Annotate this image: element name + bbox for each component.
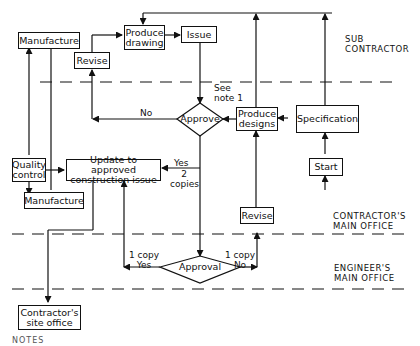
zone-sub-contractor: SUB CONTRACTOR bbox=[345, 34, 409, 54]
zone-line: MAIN OFFICE bbox=[334, 273, 395, 283]
box-label: Start bbox=[314, 162, 337, 172]
label-line: 2 bbox=[170, 169, 198, 179]
decision-approval[interactable]: Approval bbox=[170, 262, 230, 272]
box-label: Contractor's bbox=[20, 308, 78, 318]
box-specification[interactable]: Specification bbox=[296, 105, 359, 133]
label-one-copy-no: 1 copy No bbox=[224, 250, 256, 270]
label-yes: Yes bbox=[174, 158, 189, 168]
label-one-copy-yes: 1 copy Yes bbox=[128, 250, 160, 270]
zone-line: ENGINEER'S bbox=[334, 263, 395, 273]
label-line: 1 copy bbox=[224, 250, 256, 260]
box-label: drawing bbox=[125, 38, 163, 48]
label-see-note-1: See note 1 bbox=[214, 83, 243, 103]
box-label: Issue bbox=[187, 30, 212, 40]
zone-contractor-main-office: CONTRACTOR'S MAIN OFFICE bbox=[333, 211, 406, 231]
box-manufacture-bottom[interactable]: Manufacture bbox=[24, 192, 84, 209]
box-revise-bottom[interactable]: Revise bbox=[240, 207, 274, 224]
label-two-copies: 2 copies bbox=[170, 169, 198, 189]
label-line: See bbox=[214, 83, 243, 93]
box-contractors-site-office[interactable]: Contractor's site office bbox=[18, 305, 81, 330]
notes-heading: NOTES bbox=[12, 336, 44, 346]
label-line: copies bbox=[170, 179, 198, 189]
label-line: No bbox=[224, 260, 256, 270]
box-label: designs bbox=[239, 119, 275, 129]
zone-line: CONTRACTOR'S bbox=[333, 211, 406, 221]
zone-line: SUB bbox=[345, 34, 409, 44]
label-no-top: No bbox=[140, 108, 152, 118]
box-label: Manufacture bbox=[24, 196, 84, 206]
box-revise-top[interactable]: Revise bbox=[74, 52, 110, 69]
box-issue[interactable]: Issue bbox=[181, 26, 217, 43]
label-line: note 1 bbox=[214, 93, 243, 103]
box-label: Revise bbox=[241, 211, 272, 221]
box-quality-control[interactable]: Quality control bbox=[12, 158, 46, 182]
box-label: Update to approved bbox=[69, 155, 158, 175]
label-line: Yes bbox=[128, 260, 160, 270]
box-label: construction issue bbox=[70, 175, 157, 185]
box-label: control bbox=[13, 170, 46, 180]
label-line: 1 copy bbox=[128, 250, 160, 260]
box-update-construction-issue[interactable]: Update to approved construction issue bbox=[66, 159, 161, 181]
box-label: Specification bbox=[297, 114, 358, 124]
zone-engineer-main-office: ENGINEER'S MAIN OFFICE bbox=[334, 263, 395, 283]
box-start[interactable]: Start bbox=[309, 158, 343, 176]
box-produce-drawing[interactable]: Produce drawing bbox=[124, 25, 165, 50]
zone-line: MAIN OFFICE bbox=[333, 221, 406, 231]
box-manufacture-top[interactable]: Manufacture bbox=[18, 32, 80, 49]
zone-line: CONTRACTOR bbox=[345, 44, 409, 54]
box-label: Revise bbox=[76, 56, 107, 66]
box-produce-designs[interactable]: Produce designs bbox=[236, 107, 278, 131]
box-label: Manufacture bbox=[19, 36, 79, 46]
box-label: site office bbox=[26, 318, 72, 328]
box-label: Produce bbox=[125, 28, 163, 38]
decision-approve[interactable]: Approve bbox=[178, 114, 222, 124]
